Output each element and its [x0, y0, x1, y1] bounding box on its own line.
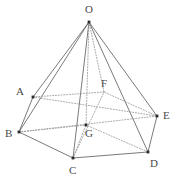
edge-d-e: [148, 116, 157, 152]
vertex-dot-d: [147, 151, 150, 154]
vertex-dot-o: [88, 21, 91, 24]
edge-b-c: [19, 132, 73, 158]
vertex-label-c: C: [69, 165, 76, 176]
edge-o-d: [89, 22, 148, 152]
edge-d-g: [86, 125, 148, 152]
vertex-label-d: D: [150, 158, 158, 169]
vertex-label-b: B: [5, 128, 12, 139]
geometry-figure: OABCDEFG: [0, 0, 185, 189]
vertex-label-a: A: [16, 86, 24, 97]
vertex-dot-c: [72, 157, 75, 160]
vertex-dot-g: [85, 124, 88, 127]
vertex-dot-e: [156, 115, 159, 118]
edge-c-d: [73, 152, 148, 158]
edge-a-e: [33, 97, 157, 116]
vertex-dot-b: [18, 131, 21, 134]
vertex-label-o: O: [85, 4, 93, 15]
edge-o-a: [33, 22, 89, 97]
vertex-label-g: G: [85, 128, 93, 139]
vertex-label-f: F: [101, 78, 107, 89]
vertex-label-e: E: [163, 110, 170, 121]
vertex-dot-a: [32, 96, 35, 99]
edge-o-b: [19, 22, 89, 132]
edge-a-b: [19, 97, 33, 132]
